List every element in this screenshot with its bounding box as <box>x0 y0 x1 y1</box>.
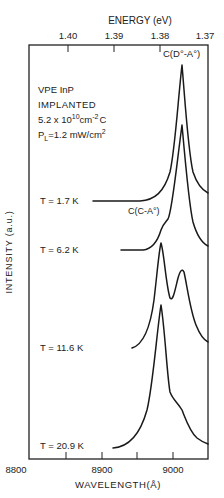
bottom-axis-ticks: 8800 8900 9000 <box>5 452 183 475</box>
top-tick-1-38: 1.38 <box>151 30 170 41</box>
top-tick-1-39: 1.39 <box>105 30 124 41</box>
spectrum-20-9k <box>113 305 208 448</box>
spectrum-1-7k <box>93 65 208 201</box>
spectrum-6-2k <box>121 125 208 250</box>
spectrum-11-6k <box>132 243 208 348</box>
svg-text:IMPLANTED: IMPLANTED <box>38 99 96 110</box>
top-tick-1-40: 1.40 <box>59 30 78 41</box>
y-axis-label: INTENSITY (a.u.) <box>4 210 14 293</box>
temp-label-6-2k: T = 6.2 K <box>40 244 79 255</box>
temp-label-20-9k: T = 20.9 K <box>40 440 85 451</box>
top-axis-label: ENERGY (eV) <box>108 15 172 26</box>
bottom-tick-8800: 8800 <box>5 464 26 475</box>
peak-label-carbon-acceptor: C(C-A°) <box>128 206 160 216</box>
peak-label-donor-acceptor: C(D°-A°) <box>163 48 200 59</box>
pl-spectra-chart: ENERGY (eV) 1.40 1.39 1.38 1.37 8800 890… <box>0 0 224 498</box>
bottom-tick-8900: 8900 <box>91 464 112 475</box>
bottom-tick-9000: 9000 <box>162 464 183 475</box>
svg-text:VPE InP: VPE InP <box>38 84 74 95</box>
sample-annotation: VPE InP IMPLANTED 5.2 x 1010cm-2C PL=1.2… <box>38 84 107 142</box>
temp-label-11-6k: T = 11.6 K <box>40 342 84 353</box>
top-tick-1-37: 1.37 <box>196 30 215 41</box>
temp-label-1-7k: T = 1.7 K <box>40 195 79 206</box>
x-axis-label: WAVELENGTH(Å) <box>75 479 161 490</box>
svg-text:5.2 x 1010cm-2C: 5.2 x 1010cm-2C <box>38 113 107 125</box>
svg-text:PL=1.2 mW/cm2: PL=1.2 mW/cm2 <box>38 128 106 142</box>
